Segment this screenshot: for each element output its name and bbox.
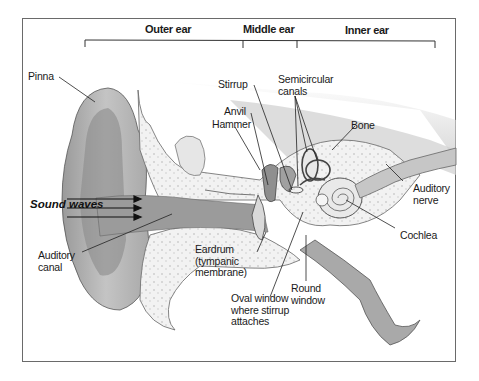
section-brackets (85, 40, 435, 48)
section-label-inner-ear: Inner ear (345, 24, 389, 36)
label-sound-waves: Sound waves (30, 198, 104, 210)
label-auditory-canal: Auditory canal (38, 250, 75, 273)
label-stirrup: Stirrup (218, 79, 248, 91)
label-bone: Bone (351, 120, 375, 132)
section-label-middle-ear: Middle ear (243, 23, 294, 35)
label-oval-window: Oval window where stirrup attaches (231, 293, 289, 328)
label-hammer: Hammer (212, 119, 251, 131)
label-eardrum: Eardrum (tympanic membrane) (195, 244, 247, 279)
label-auditory-nerve: Auditory nerve (413, 183, 450, 206)
label-anvil: Anvil (224, 106, 246, 118)
label-cochlea: Cochlea (400, 230, 437, 242)
label-pinna: Pinna (28, 71, 54, 83)
section-label-outer-ear: Outer ear (145, 23, 191, 35)
label-semicircular-canals: Semicircular canals (278, 74, 333, 97)
label-round-window: Round window (291, 283, 325, 306)
